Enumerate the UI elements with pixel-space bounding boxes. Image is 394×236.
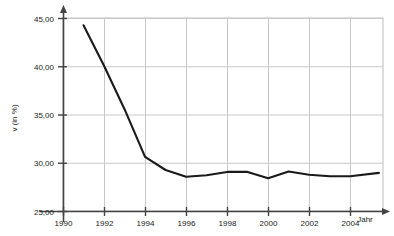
y-tick-label: 40,00 — [34, 63, 55, 72]
x-tick-label: 1996 — [178, 219, 196, 228]
x-axis-title: Jahr — [357, 215, 373, 224]
x-tick-label: 1990 — [55, 219, 73, 228]
y-tick-label: 30,00 — [34, 159, 55, 168]
x-tick-label: 1998 — [219, 219, 237, 228]
x-tick-label: 2000 — [260, 219, 278, 228]
x-tick-label: 2002 — [301, 219, 319, 228]
y-tick-label: 35,00 — [34, 111, 55, 120]
x-tick-label: 1992 — [96, 219, 114, 228]
chart-container: 25,0030,0035,0040,0045,00 19901992199419… — [0, 0, 394, 236]
line-chart: 25,0030,0035,0040,0045,00 19901992199419… — [0, 0, 394, 236]
y-tick-label: 25,00 — [34, 208, 55, 217]
y-tick-label: 45,00 — [34, 15, 55, 24]
x-tick-label: 1994 — [137, 219, 155, 228]
y-axis-title: v (in %) — [10, 104, 19, 131]
